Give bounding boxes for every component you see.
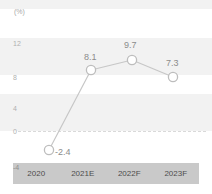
data-label-2020: -2.4 xyxy=(55,147,71,157)
series-line xyxy=(49,60,173,150)
plot-area: (%) 12 8 4 0 -2.4 8.1 9.7 7.3 xyxy=(0,0,212,163)
x-axis-tick-2020: 2020 xyxy=(13,169,60,178)
series-line-group xyxy=(0,0,212,163)
data-point-marker-2021E xyxy=(86,65,95,74)
data-point-marker-2022F xyxy=(127,55,136,64)
x-axis-labels: 2020 2021E 2022F 2023F xyxy=(13,163,199,184)
x-axis-tick-2021E: 2021E xyxy=(60,169,107,178)
data-point-marker-2020 xyxy=(44,145,53,154)
data-label-2021E: 8.1 xyxy=(84,52,97,62)
data-label-2023F: 7.3 xyxy=(166,58,179,68)
line-chart: (%) 12 8 4 0 -2.4 8.1 9.7 7.3 -4 2020 20… xyxy=(0,0,212,194)
data-point-marker-2023F xyxy=(168,72,177,81)
data-label-2022F: 9.7 xyxy=(124,40,137,50)
x-axis-tick-2022F: 2022F xyxy=(106,169,153,178)
x-axis-tick-2023F: 2023F xyxy=(153,169,200,178)
